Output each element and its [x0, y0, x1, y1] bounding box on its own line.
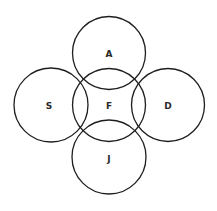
circle-d-label: D	[164, 101, 171, 111]
circle-j-label: J	[106, 154, 110, 164]
circle-a-label: A	[106, 49, 113, 59]
circle-s: S	[14, 68, 88, 142]
circle-f-label: F	[106, 101, 112, 111]
circle-s-label: S	[46, 101, 52, 111]
circle-diagram: A S F D J	[0, 0, 217, 211]
circle-j: J	[72, 120, 146, 194]
circle-d: D	[132, 69, 205, 142]
